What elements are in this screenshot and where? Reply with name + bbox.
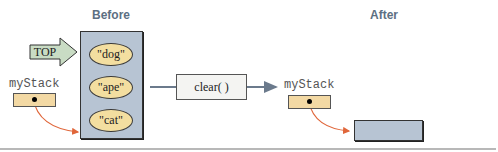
after-heading: After: [370, 8, 398, 22]
diagram-connectors: [0, 0, 498, 152]
stack-node: "cat": [89, 109, 133, 132]
clear-operation-box: clear( ): [176, 74, 247, 100]
reference-box-after: [288, 95, 331, 109]
bottom-divider: [0, 148, 496, 150]
stack-node: "ape": [89, 76, 133, 99]
mystack-label-after: myStack: [284, 78, 334, 92]
mystack-label-before: myStack: [9, 77, 59, 91]
before-heading: Before: [92, 8, 130, 22]
reference-box-before: [13, 93, 56, 107]
stack-node: "dog": [89, 43, 133, 66]
stack-box-after-empty: [354, 120, 423, 141]
top-label: TOP: [30, 45, 60, 59]
pointer-dot-icon: [32, 97, 37, 102]
pointer-dot-icon: [307, 99, 312, 104]
stack-box-before: "dog" "ape" "cat": [80, 31, 143, 139]
